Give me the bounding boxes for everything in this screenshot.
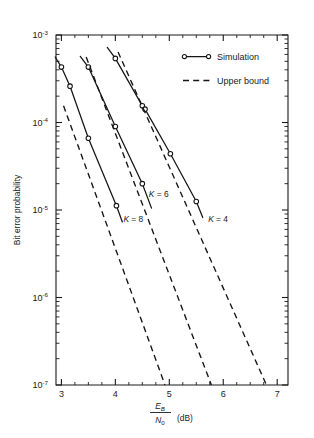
legend-label-simulation: Simulation: [217, 52, 259, 62]
x-tick-label: 5: [167, 389, 172, 399]
y-axis-major-ticks: [56, 35, 288, 385]
upper-bound-curve: [86, 57, 211, 385]
curve-label-value: = 8: [129, 214, 144, 224]
legend-entry-simulation: Simulation: [182, 52, 259, 62]
curve-label-value: = 6: [154, 189, 169, 199]
y-tick-label: 10-5: [32, 204, 48, 216]
y-tick-label: 10-7: [32, 379, 48, 391]
data-series: [55, 47, 266, 385]
upper-bound-curve: [64, 106, 165, 385]
data-point-marker: [168, 151, 173, 156]
series-upper-bound-k-6: [86, 57, 211, 385]
x-axis-denominator: N0: [155, 415, 165, 426]
data-point-marker: [59, 65, 64, 70]
x-tick-label: 4: [113, 389, 118, 399]
legend-marker-start: [182, 54, 186, 58]
x-axis-denominator-subscript: 0: [161, 419, 165, 426]
x-axis-major-ticks: [61, 35, 277, 385]
axis-frame: [56, 35, 288, 385]
curve-label-8: K = 8: [123, 214, 143, 224]
data-point-marker: [68, 84, 73, 89]
data-point-marker: [113, 56, 118, 61]
legend-marker-end: [207, 54, 211, 58]
curve-label-6: K = 6: [149, 189, 169, 199]
x-tick-label: 3: [59, 389, 64, 399]
bit-error-probability-chart: 34567 10-310-410-510-610-7 K = 8K = 6K =…: [0, 0, 314, 438]
x-tick-label: 6: [221, 389, 226, 399]
series-simulation-k-6: [80, 56, 151, 208]
x-axis-tick-labels: 34567: [59, 389, 280, 399]
y-tick-label-base: 10: [32, 205, 42, 215]
y-axis-title-text: Bit error probability: [12, 174, 22, 245]
x-axis-minor-ticks: [75, 35, 264, 385]
y-axis-minor-ticks: [56, 39, 288, 359]
y-axis-tick-labels: 10-310-410-510-610-7: [32, 29, 48, 391]
data-point-marker: [86, 136, 91, 141]
legend-label-upper-bound: Upper bound: [217, 76, 269, 86]
x-axis-units: (dB): [177, 413, 193, 423]
y-tick-label-exponent: -7: [42, 379, 48, 386]
x-tick-label: 7: [275, 389, 280, 399]
legend-entry-upper-bound: Upper bound: [183, 76, 269, 86]
y-tick-label-exponent: -4: [42, 116, 48, 123]
figure-container: 34567 10-310-410-510-610-7 K = 8K = 6K =…: [0, 0, 314, 438]
y-tick-label: 10-4: [32, 116, 48, 128]
x-axis-title: EB N0 (dB): [150, 401, 193, 426]
x-axis-numerator: EB: [155, 401, 165, 412]
y-tick-label-base: 10: [32, 293, 42, 303]
data-point-marker: [140, 181, 145, 186]
x-axis-numerator-subscript: B: [161, 405, 165, 412]
series-upper-bound-k-8: [64, 106, 165, 385]
series-simulation-k-8: [55, 57, 122, 222]
y-tick-label-base: 10: [32, 118, 42, 128]
y-axis-title: Bit error probability: [12, 174, 22, 245]
curve-label-value: = 4: [214, 214, 229, 224]
curve-label-4: K = 4: [208, 214, 228, 224]
y-tick-label-exponent: -3: [42, 29, 48, 36]
y-tick-label: 10-6: [32, 291, 48, 303]
y-tick-label-exponent: -5: [42, 204, 48, 211]
y-tick-label: 10-3: [32, 29, 48, 41]
y-tick-label-exponent: -6: [42, 291, 48, 298]
y-tick-label-base: 10: [32, 380, 42, 390]
data-point-marker: [114, 203, 119, 208]
data-point-marker: [194, 199, 199, 204]
legend: Simulation Upper bound: [182, 52, 269, 86]
y-tick-label-base: 10: [32, 30, 42, 40]
